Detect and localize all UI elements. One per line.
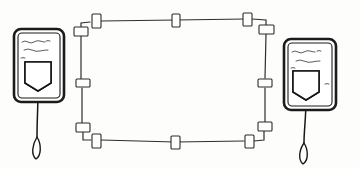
tab-top-center[interactable] [172,14,180,27]
sketch-drawing [0,0,360,169]
right-card-text-line-4 [325,84,329,85]
right-card-text-line-3 [291,68,295,69]
tab-left-middle[interactable] [76,79,90,87]
tab-right-lower[interactable] [258,122,272,131]
tab-right-upper[interactable] [259,25,274,34]
tab-right-middle[interactable] [258,79,272,87]
sketch-canvas: Hand-drawn sketch: two tagged devices fl… [0,0,360,169]
left-card-text-line-1b [46,41,50,42]
tab-left-upper[interactable] [74,27,88,36]
left-card-text-line-3 [21,58,25,59]
tab-top-right[interactable] [243,13,252,26]
tab-bottom-right[interactable] [245,135,254,148]
tab-bottom-center[interactable] [171,136,180,149]
right-card-text-line-1b [317,51,321,52]
tab-left-lower[interactable] [76,123,90,132]
tab-bottom-left[interactable] [92,134,101,148]
tab-top-left[interactable] [92,14,101,28]
